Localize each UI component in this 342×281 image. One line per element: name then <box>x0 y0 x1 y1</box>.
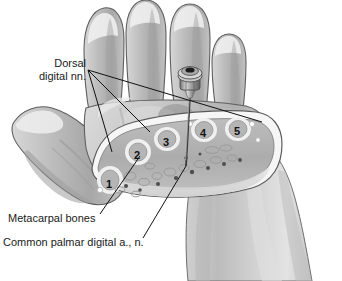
label-dorsal-line1: Dorsal <box>54 57 86 69</box>
metacarpal-number-1: 1 <box>106 178 112 190</box>
anatomical-figure: Dorsal digital nn. Metacarpal bones Comm… <box>0 0 342 281</box>
label-dorsal-line2: digital nn. <box>39 70 86 82</box>
metacarpal-number-2: 2 <box>134 149 140 161</box>
metacarpal-number-5: 5 <box>234 125 240 137</box>
syringe-hub-icon <box>178 67 202 90</box>
label-metacarpal-bones: Metacarpal bones <box>8 212 95 225</box>
label-common-palmar-digital: Common palmar digital a., n. <box>3 236 144 249</box>
metacarpal-number-3: 3 <box>163 136 169 148</box>
label-dorsal-digital-nn: Dorsal digital nn. <box>0 57 86 82</box>
metacarpal-number-4: 4 <box>200 127 206 139</box>
